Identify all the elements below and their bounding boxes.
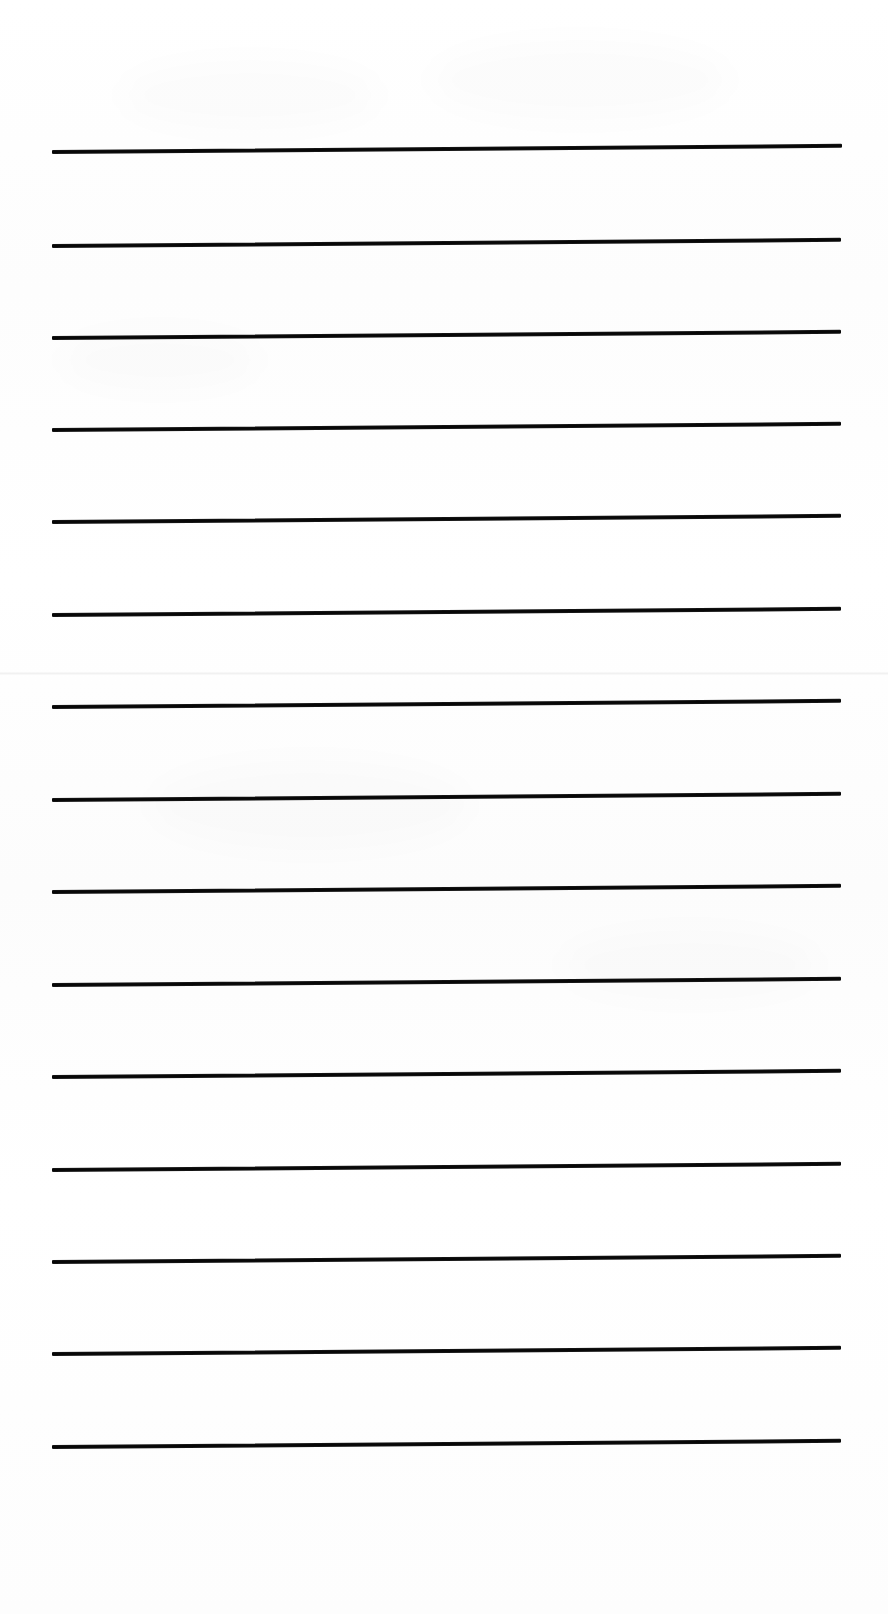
rule-line[interactable] [52, 977, 841, 987]
rule-line[interactable] [52, 238, 841, 248]
rule-line[interactable] [52, 422, 841, 432]
rule-line[interactable] [52, 1254, 841, 1264]
rule-line[interactable] [52, 607, 841, 617]
rule-line[interactable] [52, 1439, 841, 1449]
writing-area[interactable] [0, 0, 888, 1614]
rule-line[interactable] [52, 330, 841, 340]
rule-line[interactable] [52, 699, 841, 709]
rule-line[interactable] [52, 1069, 841, 1079]
lined-paper-page [0, 0, 888, 1614]
rule-line[interactable] [52, 884, 841, 894]
rule-line[interactable] [52, 1346, 841, 1356]
rule-line[interactable] [52, 1162, 841, 1172]
rule-line[interactable] [52, 514, 841, 524]
rule-line[interactable] [52, 792, 841, 802]
rule-line[interactable] [52, 144, 842, 154]
